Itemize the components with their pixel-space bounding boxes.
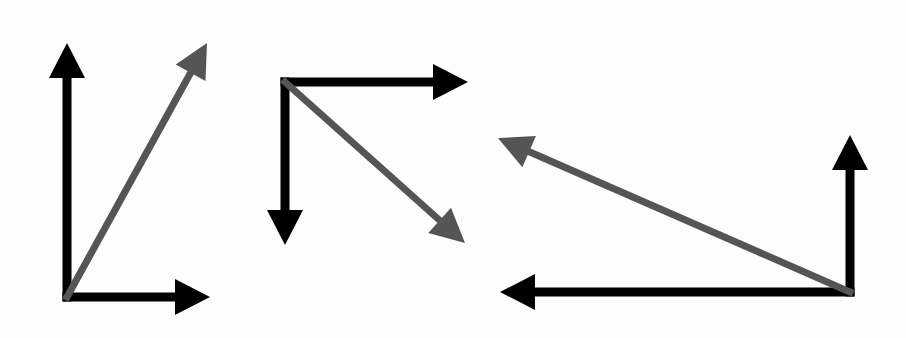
resultant-arrow-down-right [285,82,465,243]
resultant-arrow-down-right-shaft [285,82,441,222]
resultant-arrow-up-left [498,136,850,292]
component-arrow-left [500,274,850,310]
vector-diagram-canvas [0,0,906,338]
component-arrow-left-head-icon [500,274,535,310]
group-1 [49,43,210,315]
resultant-arrow-up-right [67,43,207,297]
component-arrow-up [49,43,85,297]
vector-diagram [0,0,906,338]
component-arrow-up-head-icon [832,135,868,170]
component-arrow-up [832,135,868,292]
component-arrow-down-head-icon [267,210,303,245]
group-2 [267,64,468,245]
component-arrow-right-head-icon [175,279,210,315]
component-arrow-up-head-icon [49,43,85,78]
component-arrow-down [267,82,303,245]
component-arrow-right [285,64,468,100]
resultant-arrow-up-right-shaft [67,71,192,297]
component-arrow-right [67,279,210,315]
resultant-arrow-up-left-shaft [527,151,850,292]
component-arrow-right-head-icon [433,64,468,100]
group-3 [498,135,868,310]
